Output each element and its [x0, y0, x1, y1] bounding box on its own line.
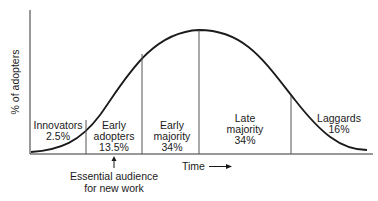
x-axis-label: Time: [182, 160, 205, 172]
up-arrow-icon: [112, 156, 117, 168]
time-arrow-icon: [209, 164, 232, 169]
segment-share: 16%: [328, 123, 349, 135]
segment-late-majority: Late majority 34%: [227, 112, 265, 146]
annotation-line2: for new work: [84, 182, 144, 194]
segment-early-majority: Early majority 34%: [154, 119, 192, 153]
segment-share: 34%: [234, 134, 255, 146]
segment-early-adopters: Early adopters 13.5%: [94, 119, 135, 153]
segment-share: 13.5%: [99, 141, 129, 153]
segment-share: 34%: [161, 141, 182, 153]
adoption-curve-diagram: % of adopters Innovators 2.5% Early adop…: [0, 0, 378, 201]
annotation-line1: Essential audience: [70, 170, 158, 182]
segment-share: 2.5%: [46, 130, 70, 142]
y-axis-label: % of adopters: [9, 50, 21, 115]
